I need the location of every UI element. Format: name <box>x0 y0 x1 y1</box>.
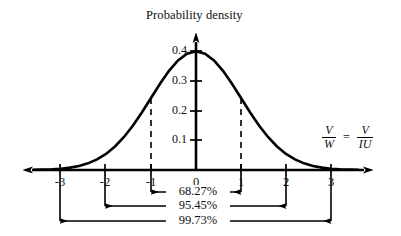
equals-sign: = <box>340 131 353 143</box>
fraction-denominator-iu: IU <box>357 138 374 151</box>
x-tick-label-3: 3 <box>317 176 345 189</box>
fraction-denominator-w: W <box>322 138 336 151</box>
annotation-label-99: 99.73% <box>166 214 230 227</box>
x-tick-label-minus-3: -3 <box>46 176 74 189</box>
y-tick-label-0-1: 0.1 <box>155 133 187 145</box>
x-tick-label-minus-2: -2 <box>91 176 119 189</box>
y-tick-label-0-2: 0.2 <box>155 104 187 116</box>
probability-density-figure: Probability density 0.4 0.3 0.2 0.1 -3 -… <box>0 0 401 236</box>
annotation-label-95: 95.45% <box>166 199 230 212</box>
chart-title: Probability density <box>146 9 243 22</box>
y-axis <box>190 42 202 170</box>
fraction-numerator-v-2: V <box>357 124 374 138</box>
fraction-v-over-iu: V IU <box>357 124 374 151</box>
x-tick-label-1: 1 <box>227 176 255 189</box>
y-tick-label-0-3: 0.3 <box>155 74 187 86</box>
x-tick-label-minus-1: -1 <box>137 176 165 189</box>
annotation-label-68: 68.27% <box>166 185 230 198</box>
y-tick-label-0-4: 0.4 <box>155 44 187 56</box>
x-tick-label-2: 2 <box>272 176 300 189</box>
fraction-v-over-w: V W <box>322 124 336 151</box>
fraction-numerator-v: V <box>322 124 336 138</box>
x-axis-label: V W = V IU <box>322 124 373 151</box>
